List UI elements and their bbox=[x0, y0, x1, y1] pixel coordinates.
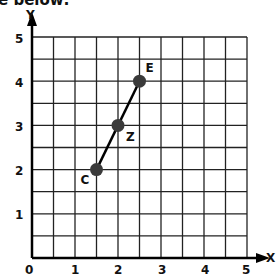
coordinate-grid: Y X 0 1 2 3 4 5 1 2 3 4 5 CZE bbox=[0, 0, 279, 277]
x-axis-label: X bbox=[266, 251, 276, 265]
x-tick-label: 3 bbox=[158, 263, 166, 277]
grid-lines bbox=[32, 37, 247, 258]
x-tick-label: 0 bbox=[25, 263, 33, 277]
x-tick-labels: 0 1 2 3 4 5 bbox=[25, 263, 250, 277]
x-tick-label: 4 bbox=[201, 263, 209, 277]
point-e-label: E bbox=[146, 61, 154, 75]
x-tick-label: 2 bbox=[114, 263, 122, 277]
points-layer: CZE bbox=[81, 61, 154, 186]
y-tick-label: 2 bbox=[15, 164, 23, 178]
y-axis-label: Y bbox=[25, 8, 35, 22]
point-e-marker bbox=[133, 75, 146, 88]
y-tick-label: 1 bbox=[15, 208, 23, 222]
y-tick-label: 4 bbox=[15, 76, 23, 90]
x-tick-label: 1 bbox=[71, 263, 79, 277]
point-z-label: Z bbox=[126, 130, 135, 144]
x-tick-label: 5 bbox=[242, 263, 250, 277]
axes bbox=[27, 12, 270, 263]
y-tick-label: 5 bbox=[15, 32, 23, 46]
y-tick-label: 3 bbox=[15, 120, 23, 134]
point-z-marker bbox=[112, 119, 125, 132]
point-c-marker bbox=[90, 163, 103, 176]
y-tick-labels: 1 2 3 4 5 bbox=[15, 32, 23, 222]
point-c-label: C bbox=[81, 173, 90, 187]
